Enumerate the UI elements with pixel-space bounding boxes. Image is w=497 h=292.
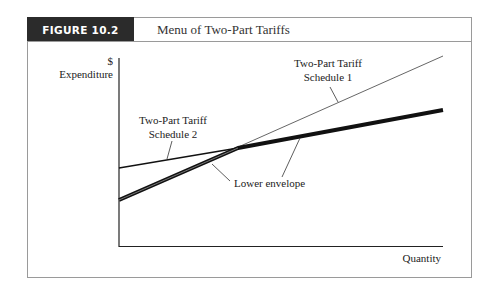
- schedule-1-label-line2: Schedule 1: [304, 71, 353, 83]
- schedule-1-leader: [330, 87, 338, 102]
- envelope-leader-left: [212, 164, 230, 181]
- envelope-leader-right: [282, 138, 300, 177]
- x-axis-label: Quantity: [403, 252, 442, 264]
- schedule-2-label-line2: Schedule 2: [149, 128, 198, 140]
- y-axis-label: Expenditure: [59, 68, 113, 80]
- envelope-highlight: [119, 148, 238, 200]
- schedule-1-label-line1: Two-Part Tariff: [294, 57, 362, 69]
- schedule-2-line: [119, 148, 238, 168]
- schedule-2-label-line1: Two-Part Tariff: [139, 114, 207, 126]
- schedule-2-leader: [167, 141, 172, 159]
- chart: $ Expenditure Quantity Two-Part Tariff S…: [0, 0, 497, 292]
- y-axis-symbol: $: [108, 55, 114, 67]
- lower-envelope-label: Lower envelope: [234, 177, 305, 189]
